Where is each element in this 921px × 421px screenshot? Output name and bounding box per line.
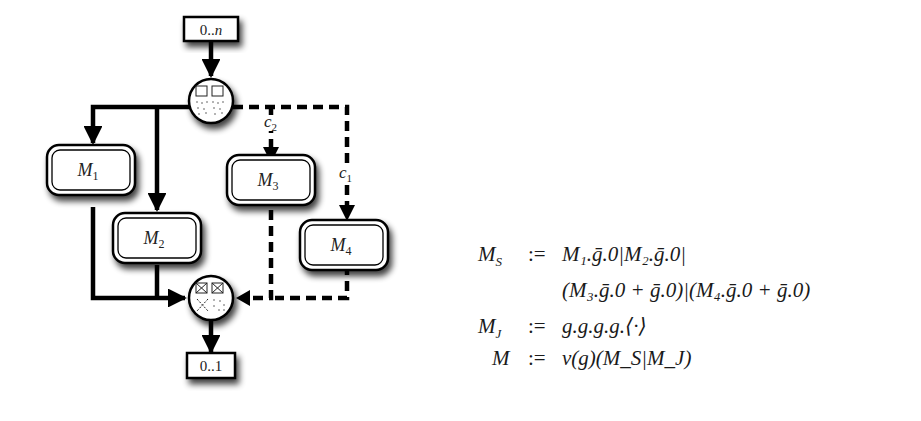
workflow-diagram: 0..n M1 M2 M3 M4 c2 c1	[0, 0, 460, 421]
join-gateway	[189, 276, 233, 320]
input-multiplicity-label: 0..n	[200, 22, 223, 38]
formula-mj: MJ := g.g.g.g.⟨·⟩	[478, 312, 918, 340]
formula-rhs: M₁.ḡ.0|M₂.ḡ.0|	[562, 240, 686, 268]
formula-m: M := ν(g)(M_S|M_J)	[478, 344, 918, 372]
output-multiplicity-label: 0..1	[200, 358, 223, 374]
formula-ms: MS := M₁.ḡ.0|M₂.ḡ.0|	[478, 240, 918, 268]
assign-operator: :=	[528, 344, 546, 372]
formula-lhs: MJ	[478, 312, 501, 348]
assign-operator: :=	[528, 312, 546, 340]
formula-lhs: M	[492, 344, 510, 372]
formula-ms-continued: (M₃.ḡ.0 + ḡ.0)|(M₄.ḡ.0 + ḡ.0)	[478, 276, 918, 304]
formula-rhs: g.g.g.g.⟨·⟩	[562, 312, 647, 340]
formula-lhs: MS	[478, 240, 502, 276]
formula-rhs: (M₃.ḡ.0 + ḡ.0)|(M₄.ḡ.0 + ḡ.0)	[562, 276, 810, 304]
formula-rhs: ν(g)(M_S|M_J)	[562, 344, 691, 372]
assign-operator: :=	[528, 240, 546, 268]
split-gateway	[189, 79, 233, 123]
